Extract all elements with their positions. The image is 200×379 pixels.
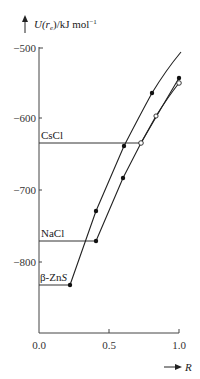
zns-label: β-ZnS xyxy=(40,271,67,283)
xtick-label: 1.0 xyxy=(172,339,186,351)
svg-text:R: R xyxy=(184,361,192,373)
ytick-label: −500 xyxy=(13,42,36,54)
nacl-label: NaCl xyxy=(41,227,64,239)
chart: U(re)/kJ mol−1 −500 −600 −700 −800 0.0 0… xyxy=(0,0,200,379)
arrow-right-icon xyxy=(175,364,182,370)
arrow-up-icon xyxy=(22,15,28,22)
x-axis-title: R xyxy=(164,361,192,373)
svg-text:U(re)/kJ mol−1: U(re)/kJ mol−1 xyxy=(34,18,97,32)
series-nacl-curve-filled xyxy=(96,78,179,241)
cscl-label: CsCl xyxy=(41,129,63,141)
axes xyxy=(39,47,179,333)
xtick-label: 0.5 xyxy=(102,339,116,351)
xtick-label: 0.0 xyxy=(32,339,46,351)
ytick-label: −700 xyxy=(13,184,36,196)
ytick-label: −800 xyxy=(13,256,36,268)
filled-markers xyxy=(68,76,181,287)
reference-lines xyxy=(39,143,141,285)
y-axis-title: U(re)/kJ mol−1 xyxy=(22,15,97,33)
ytick-label: −600 xyxy=(13,112,36,124)
series-zns-curve xyxy=(70,52,181,285)
